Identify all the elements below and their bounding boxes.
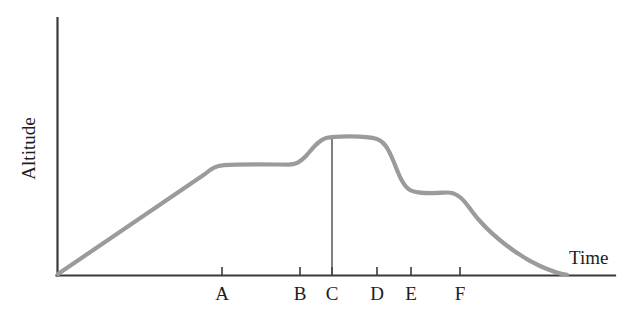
altitude-time-chart: A B C D E F Time Altitude: [0, 0, 627, 316]
chart-canvas: [0, 0, 627, 316]
x-tick-label-c: C: [320, 284, 344, 303]
x-tick-label-b: B: [288, 284, 312, 303]
x-tick-label-a: A: [210, 284, 234, 303]
x-tick-label-e: E: [399, 284, 423, 303]
y-axis-title: Altitude: [19, 104, 38, 194]
x-tick-label-f: F: [448, 284, 472, 303]
x-tick-label-d: D: [365, 284, 389, 303]
x-axis-title: Time: [569, 248, 608, 267]
altitude-curve: [58, 136, 567, 275]
